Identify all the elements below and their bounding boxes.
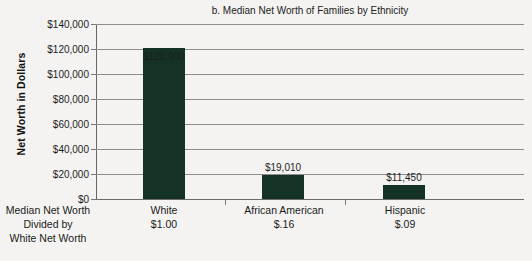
category-label-hispanic: Hispanic $.09	[385, 203, 425, 231]
y-tick-100000	[91, 74, 96, 75]
category-ratio-hispanic: $.09	[385, 217, 425, 231]
bar-hispanic[interactable]	[383, 185, 425, 199]
y-tick-140000	[91, 24, 96, 25]
category-name-african-american: African American	[244, 204, 323, 216]
category-label-african-american: African American $.16	[244, 203, 323, 231]
chart-figure: b. Median Net Worth of Families by Ethni…	[0, 0, 532, 261]
bar-value-african-american: $19,010	[265, 162, 301, 173]
bar-value-white: $120,900	[143, 51, 185, 62]
category-ratio-african-american: $.16	[244, 217, 323, 231]
y-tick-120000	[91, 49, 96, 50]
y-tick-80000	[91, 99, 96, 100]
y-tick-40000	[91, 149, 96, 150]
y-tick-label-140000: $140,000	[47, 19, 89, 30]
category-label-white: White $1.00	[151, 203, 178, 231]
gridline-baseline-0: $0	[96, 199, 524, 200]
bar-value-hispanic: $11,450	[386, 172, 421, 183]
y-tick-label-60000: $60,000	[53, 119, 89, 130]
y-tick-label-40000: $40,000	[53, 144, 89, 155]
category-ratio-white: $1.00	[151, 217, 178, 231]
plot-area: $140,000 $120,000 $100,000 $80,000 $60,0…	[96, 24, 524, 199]
y-tick-label-20000: $20,000	[53, 169, 89, 180]
x-tick-2	[345, 200, 346, 205]
y-tick-0	[91, 199, 96, 200]
bar-white[interactable]	[143, 48, 185, 199]
y-tick-20000	[91, 174, 96, 175]
bar-african-american[interactable]	[262, 175, 304, 199]
corner-caption-line-2: Divided by	[0, 217, 96, 231]
corner-caption-line-1: Median Net Worth	[0, 203, 96, 217]
y-tick-label-120000: $120,000	[47, 44, 89, 55]
corner-caption-line-3: White Net Worth	[0, 231, 96, 245]
x-tick-1	[225, 200, 226, 205]
y-tick-label-100000: $100,000	[47, 69, 89, 80]
category-name-white: White	[151, 204, 178, 216]
y-axis-title: Net Worth in Dollars	[15, 29, 27, 179]
corner-caption: Median Net Worth Divided by White Net Wo…	[0, 203, 96, 245]
chart-title: b. Median Net Worth of Families by Ethni…	[96, 4, 524, 17]
category-name-hispanic: Hispanic	[385, 204, 425, 216]
y-tick-60000	[91, 124, 96, 125]
gridline-140000: $140,000	[96, 24, 524, 25]
y-tick-label-80000: $80,000	[53, 94, 89, 105]
